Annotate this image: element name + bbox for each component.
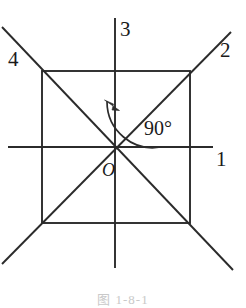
axis-label-4: 4 xyxy=(8,49,19,70)
axis-label-1: 1 xyxy=(216,149,227,170)
angle-measure-label: 90° xyxy=(144,118,172,138)
axis-label-2: 2 xyxy=(220,40,231,61)
origin-label: O xyxy=(102,161,115,179)
axis-label-3: 3 xyxy=(120,19,131,40)
diagonal-line-nw xyxy=(2,27,233,270)
figure-caption: 图 1-8-1 xyxy=(0,289,246,308)
